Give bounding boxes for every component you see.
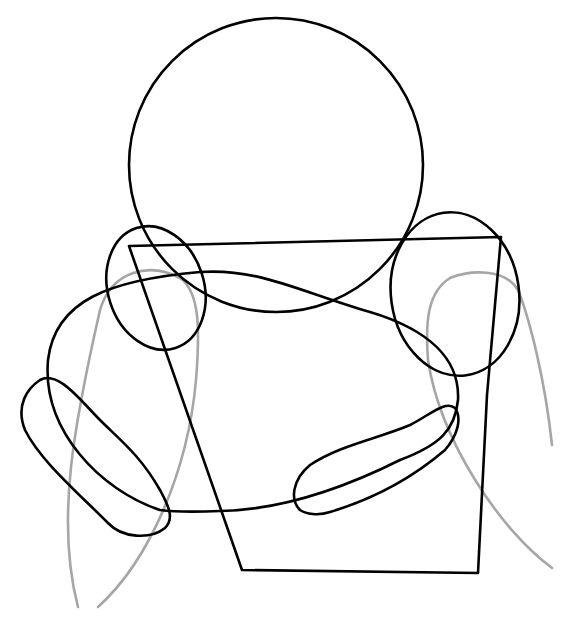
right-guide-arc [427,272,552,568]
head-circle [129,18,423,312]
sketch-canvas [0,0,572,630]
right-forearm-capsule [294,406,458,514]
body-ellipse [48,272,459,512]
left-forearm-capsule [21,378,170,536]
right-shoulder-oval [380,204,530,384]
left-guide-loop [68,270,198,607]
